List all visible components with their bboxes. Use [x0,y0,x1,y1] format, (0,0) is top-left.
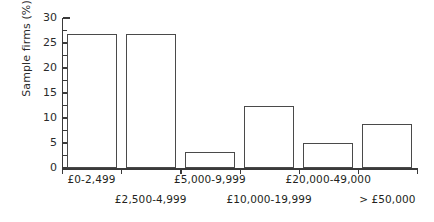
y-tick-label: 5 [50,136,57,149]
bar [362,124,412,168]
x-axis-label: £20,000-49,000 [268,173,388,185]
y-tick-mark [63,17,70,18]
x-axis-label: £0-2,499 [32,173,152,185]
bar [244,106,294,169]
x-axis-label: > £50,000 [327,193,434,205]
x-axis-label: £10,000-19,999 [209,193,329,205]
bar-chart-figure: Sample firms (%) 051015202530 £0-2,499£2… [0,0,434,222]
y-axis-title: Sample firms (%) [20,0,33,113]
y-tick-label: 10 [43,111,57,124]
y-tick-label: 30 [43,11,57,24]
bar [185,152,235,168]
bar [303,143,353,168]
y-tick-label: 15 [43,86,57,99]
bar [67,34,117,168]
y-tick-label: 20 [43,61,57,74]
y-tick-mark [63,30,67,31]
plot-area: 051015202530 [62,18,417,168]
x-tick-mark [417,168,418,174]
y-tick-label: 25 [43,36,57,49]
x-axis-label: £2,500-4,999 [91,193,211,205]
x-axis-label: £5,000-9,999 [150,173,270,185]
bar [126,34,176,168]
